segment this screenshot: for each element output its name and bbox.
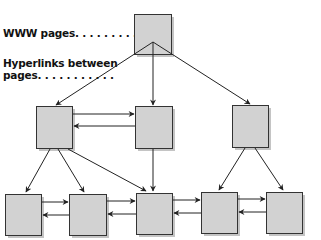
page-box-l3-2: [70, 195, 107, 236]
page-box-l3-4: [202, 193, 238, 234]
web-page-graph: [0, 0, 321, 240]
page-box-l2-right: [233, 106, 269, 148]
page-box-l2-left: [37, 107, 73, 149]
page-box-l2-mid: [136, 107, 173, 149]
page-box-l3-3: [137, 194, 173, 235]
page-box-l3-1: [6, 195, 42, 236]
page-box-l3-5: [267, 193, 303, 234]
